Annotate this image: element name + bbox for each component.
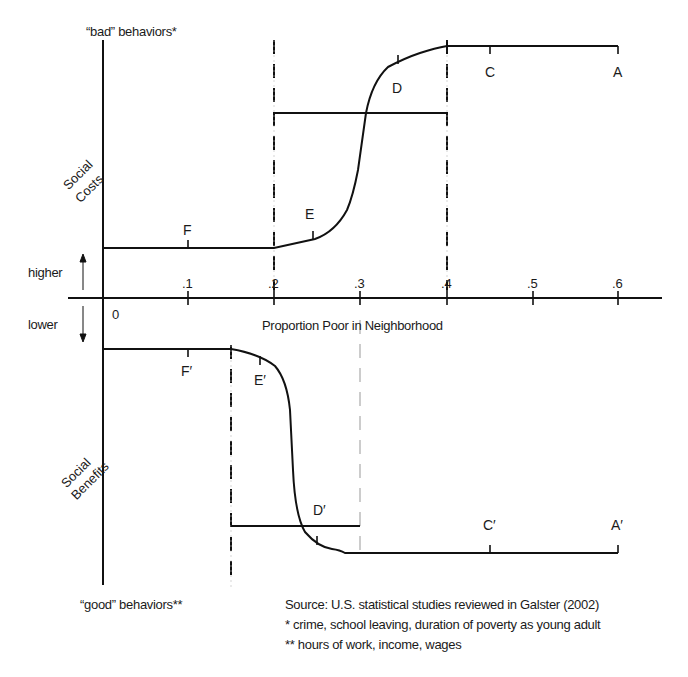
bad-behaviors-label: “bad” behaviors* <box>86 24 177 39</box>
footnote-good-behaviors: ** hours of work, income, wages <box>285 637 461 652</box>
lower-point-ticks <box>188 349 618 553</box>
point-label-f: F <box>183 222 192 238</box>
footnote-bad-behaviors: * crime, school leaving, duration of pov… <box>285 617 600 632</box>
threshold-effects-diagram: “bad” behaviors* “good” behaviors** Soci… <box>0 0 688 677</box>
point-label-d: D <box>392 80 402 96</box>
point-label-d-prime: D′ <box>313 502 326 518</box>
point-label-e: E <box>305 206 314 222</box>
x-tick-label: .5 <box>527 276 538 291</box>
x-origin-label: 0 <box>112 307 119 322</box>
point-label-c-prime: C′ <box>483 517 496 533</box>
diagram-lines <box>0 0 688 677</box>
point-label-a: A <box>613 64 622 80</box>
x-tick-label: .4 <box>441 276 452 291</box>
x-tick-label: .6 <box>612 276 623 291</box>
good-behaviors-label: “good” behaviors** <box>80 597 182 612</box>
source-note: Source: U.S. statistical studies reviewe… <box>285 597 599 612</box>
lower-label: lower <box>28 317 58 332</box>
x-tick-label: .2 <box>268 276 279 291</box>
point-label-f-prime: F′ <box>181 363 192 379</box>
x-axis-title: Proportion Poor in Neighborhood <box>262 318 443 333</box>
upper-point-ticks <box>188 40 618 248</box>
point-label-a-prime: A′ <box>611 517 623 533</box>
lower-arrow-icon <box>80 306 86 342</box>
higher-label: higher <box>28 265 62 280</box>
x-tick-label: .1 <box>182 276 193 291</box>
social-costs-curve <box>103 46 618 248</box>
point-label-e-prime: E′ <box>254 372 266 388</box>
x-tick-label: .3 <box>354 276 365 291</box>
point-label-c: C <box>485 64 495 80</box>
higher-arrow-icon <box>80 254 86 290</box>
